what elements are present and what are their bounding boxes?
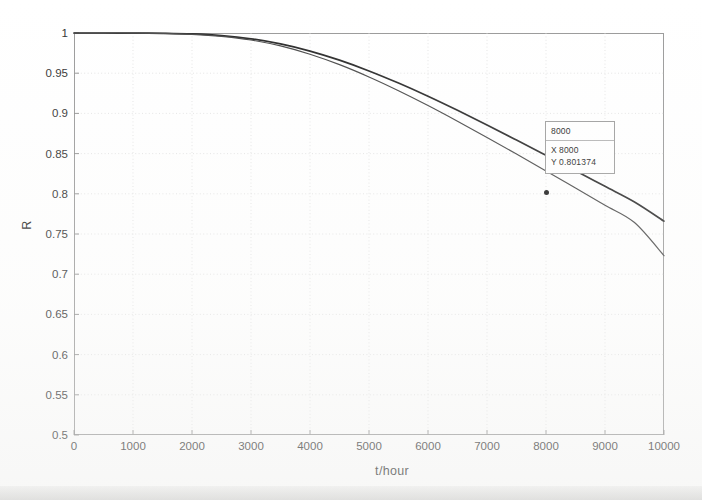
datatip-marker[interactable] xyxy=(544,190,549,195)
data-tip-x-row: X8000 xyxy=(551,144,609,157)
y-tick-label: 0.9 xyxy=(0,107,68,119)
x-tick-label: 3000 xyxy=(238,440,264,452)
y-tick-label: 0.8 xyxy=(0,188,68,200)
data-tip-x-value: 8000 xyxy=(559,145,579,155)
y-tick-label: 0.65 xyxy=(0,308,68,320)
x-tick-label: 8000 xyxy=(533,440,559,452)
data-tip-y-value: 0.801374 xyxy=(559,157,596,167)
y-tick-label: 0.55 xyxy=(0,389,68,401)
x-tick-label: 5000 xyxy=(356,440,382,452)
y-tick-label: 1 xyxy=(0,27,68,39)
y-tick-label: 0.5 xyxy=(0,429,68,441)
data-tip-body: X8000 Y0.801374 xyxy=(546,141,614,173)
data-tip-y-row: Y0.801374 xyxy=(551,156,609,169)
y-tick-label: 0.95 xyxy=(0,67,68,79)
x-axis-label-text: t/hour xyxy=(375,464,409,478)
y-tick-label: 0.7 xyxy=(0,268,68,280)
data-tip-box[interactable]: 8000 X8000 Y0.801374 xyxy=(545,121,615,174)
x-tick-label: 7000 xyxy=(474,440,500,452)
x-tick-label: 1000 xyxy=(120,440,146,452)
x-tick-label: 6000 xyxy=(415,440,441,452)
x-tick-label: 2000 xyxy=(179,440,205,452)
y-axis-label: R xyxy=(20,190,34,260)
x-tick-label: 4000 xyxy=(297,440,323,452)
data-tip-y-key: Y xyxy=(551,157,559,168)
x-tick-label: 0 xyxy=(71,440,77,452)
y-tick-label: 0.75 xyxy=(0,228,68,240)
figure-canvas: R 0.50.550.60.650.70.750.80.850.90.951 0… xyxy=(0,0,702,500)
data-curves xyxy=(74,33,664,435)
x-tick-label: 9000 xyxy=(592,440,618,452)
y-tick-label: 0.85 xyxy=(0,148,68,160)
x-axis-label: t/hour xyxy=(0,464,702,478)
x-tick-label: 10000 xyxy=(648,440,680,452)
data-tip-title: 8000 xyxy=(546,122,614,141)
data-tip-x-key: X xyxy=(551,145,559,156)
y-tick-label: 0.6 xyxy=(0,349,68,361)
bottom-shade-overlay xyxy=(0,486,702,500)
plot-area xyxy=(74,33,664,435)
